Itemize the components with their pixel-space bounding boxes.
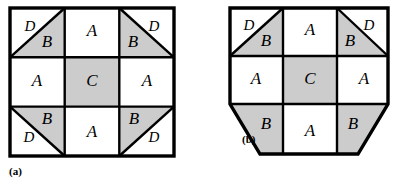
label-a-r2c2-b: B: [129, 109, 140, 128]
figure-a: D B A D B A C A B D A B D: [8, 6, 176, 158]
caption-figure-a: (a): [9, 165, 22, 177]
label-b-r2c1-a: A: [304, 121, 316, 140]
label-b-r2c2-b: B: [348, 114, 359, 133]
label-a-r0c1-a: A: [86, 21, 98, 40]
label-a-r0c2-d: D: [148, 18, 160, 34]
label-b-r0c2-d: D: [363, 17, 375, 33]
label-b-r1c2-a: A: [358, 69, 370, 88]
label-b-r0c1-a: A: [304, 20, 316, 39]
label-a-r1c2-a: A: [141, 71, 153, 90]
label-a-r2c0-d: D: [23, 129, 35, 145]
figure-a-svg: D B A D B A C A B D A B D: [8, 6, 176, 158]
label-b-r1c0-a: A: [250, 69, 262, 88]
label-a-r1c0-a: A: [31, 71, 43, 90]
label-b-r0c2-b: B: [345, 31, 356, 50]
label-a-r0c2-b: B: [128, 32, 139, 51]
figure-pair-container: D B A D B A C A B D A B D: [0, 0, 397, 183]
label-a-r2c0-b: B: [42, 109, 53, 128]
label-a-r1c1-c: C: [86, 71, 98, 90]
label-b-r0c0-d: D: [243, 17, 255, 33]
label-a-r2c2-d: D: [148, 129, 160, 145]
caption-figure-b: (b): [242, 133, 255, 145]
label-b-r2c0-b: B: [261, 114, 272, 133]
label-a-r0c0-d: D: [24, 18, 36, 34]
label-a-r2c1-a: A: [86, 122, 98, 141]
label-a-r0c0-b: B: [42, 32, 53, 51]
label-b-r1c1-c: C: [304, 69, 316, 88]
label-b-r0c0-b: B: [261, 31, 272, 50]
